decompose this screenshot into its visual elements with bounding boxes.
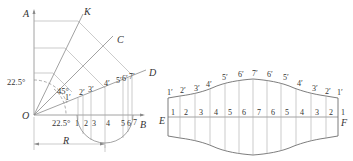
center-num-4: 4 [214,108,218,117]
right-figure: E F 1 2 3 4 5 6 7 6 5 4 3 2 1 1′ 2′ 3′ 4… [158,69,348,155]
center-num-6b: 6 [271,108,275,117]
base-num-5: 5 [121,119,125,128]
center-num-3: 3 [199,108,203,117]
angle-label-22-5-bottom: 22.5° [52,118,70,128]
angle-label-22-5-top: 22.5° [7,77,25,87]
top-label-3b: 3′ [312,84,318,93]
arrow-right-icon [140,114,145,117]
top-label-5: 5′ [222,73,228,82]
top-label-3: 3′ [194,84,200,93]
center-num-1: 1 [171,108,175,117]
label-o: O [22,110,29,121]
center-num-5b: 5 [285,108,289,117]
center-num-5: 5 [228,108,232,117]
top-label-6b: 6′ [267,70,273,79]
prime-7: 7′ [129,72,135,81]
label-d: D [148,67,157,78]
base-num-7: 7 [133,118,137,127]
base-num-6: 6 [127,119,131,128]
label-c: C [117,34,124,45]
projection-line-2 [65,48,105,88]
label-b: B [140,119,146,130]
center-num-4b: 4 [300,108,304,117]
center-num-3b: 3 [315,108,319,117]
base-num-2: 2 [84,119,88,128]
prime-3: 3′ [88,85,94,94]
top-label-6: 6′ [238,70,244,79]
left-figure: A K C D O B R 22.5° 45° 22.5° 1 2 3 4 5 … [7,6,157,152]
prime-4: 4′ [104,79,110,88]
arrow-left-icon [34,143,39,146]
projection-line-1 [78,21,133,76]
top-label-1b: 1′ [337,88,343,97]
label-f: F [340,117,348,128]
top-label-1: 1′ [167,88,173,97]
center-num-7: 7 [257,108,261,117]
prime-2: 2′ [79,88,85,97]
center-num-1b: 1 [341,108,345,117]
arrow-up-icon [33,9,36,14]
label-e: E [158,115,165,126]
label-r: R [62,135,69,146]
prime-6: 6′ [122,74,128,83]
top-label-2b: 2′ [325,87,331,96]
center-num-6: 6 [242,108,246,117]
ray-ok [34,14,83,115]
center-num-2: 2 [184,108,188,117]
label-a: A [22,8,30,19]
center-num-2b: 2 [329,108,333,117]
top-label-2: 2′ [180,86,186,95]
top-label-4b: 4′ [297,79,303,88]
top-label-7: 7′ [252,69,258,78]
prime-1: 1′ [65,93,71,102]
top-label-5b: 5′ [283,73,289,82]
label-k: K [83,6,92,17]
top-label-4: 4′ [206,80,212,89]
development-diagram: A K C D O B R 22.5° 45° 22.5° 1 2 3 4 5 … [0,0,353,161]
base-num-4: 4 [106,119,110,128]
base-num-1: 1 [75,119,79,128]
base-num-3: 3 [92,119,96,128]
